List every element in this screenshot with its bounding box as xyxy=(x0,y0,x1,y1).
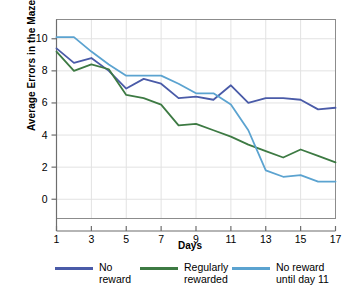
legend-label: No reward until day 11 xyxy=(276,262,329,285)
chart-legend: No rewardRegularly rewardedNo reward unt… xyxy=(0,262,349,304)
legend-item[interactable]: No reward until day 11 xyxy=(232,262,329,285)
legend-color-swatch xyxy=(232,267,270,270)
gridlines xyxy=(57,20,336,219)
chart-figure: Average Errors in the Maze Days 1086420 … xyxy=(0,0,349,304)
legend-label: Regularly rewarded xyxy=(184,262,228,285)
legend-item[interactable]: No reward xyxy=(55,262,131,285)
legend-label: No reward xyxy=(99,262,131,285)
legend-color-swatch xyxy=(55,267,93,270)
legend-item[interactable]: Regularly rewarded xyxy=(140,262,228,285)
legend-color-swatch xyxy=(140,267,178,270)
plot-area xyxy=(0,0,349,304)
